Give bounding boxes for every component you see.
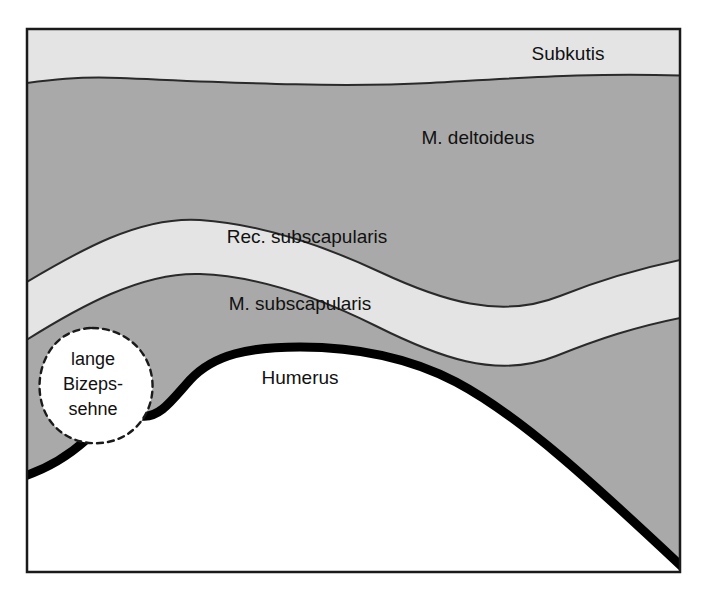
label-lange-bizepssehne-line-3: sehne bbox=[68, 399, 117, 419]
anatomy-diagram-svg: Subkutis M. deltoideus Rec. subscapulari… bbox=[0, 0, 701, 600]
label-m-deltoideus: M. deltoideus bbox=[421, 127, 534, 148]
label-m-subscapularis: M. subscapularis bbox=[229, 293, 372, 314]
label-lange-bizepssehne-line-1: lange bbox=[71, 349, 115, 369]
label-humerus: Humerus bbox=[261, 367, 338, 388]
label-lange-bizepssehne: lange Bizeps- sehne bbox=[63, 349, 123, 419]
label-rec-subscapularis: Rec. subscapularis bbox=[227, 226, 388, 247]
label-subkutis: Subkutis bbox=[532, 43, 605, 64]
label-lange-bizepssehne-line-2: Bizeps- bbox=[63, 374, 123, 394]
anatomy-figure: Subkutis M. deltoideus Rec. subscapulari… bbox=[0, 0, 701, 600]
